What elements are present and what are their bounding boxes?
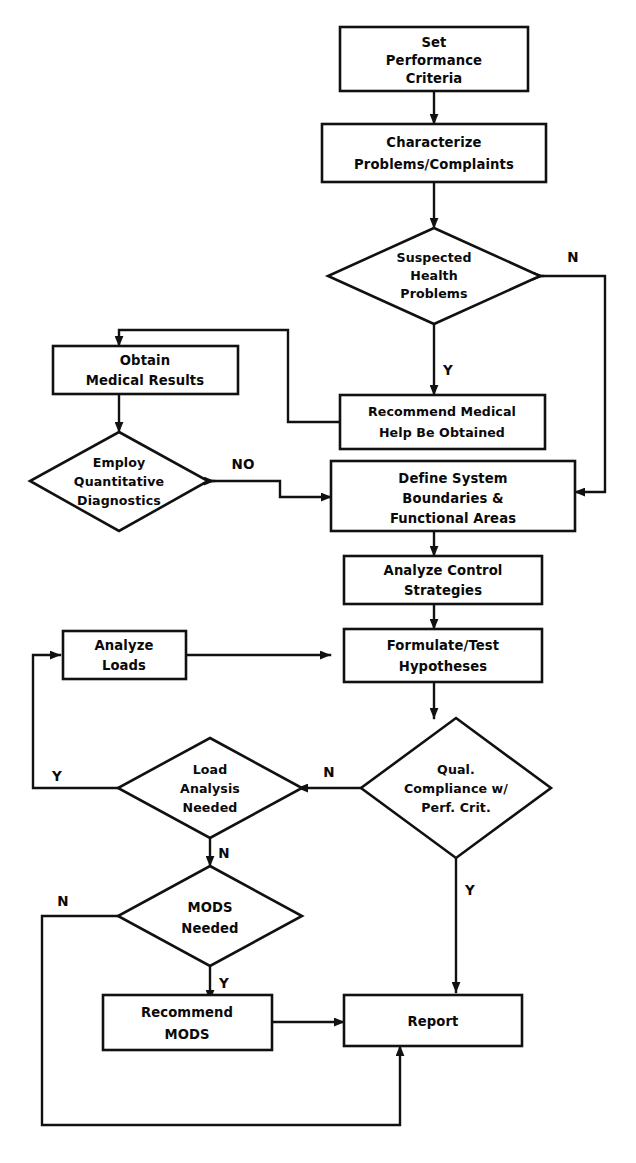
node-shape-decision [118,866,302,966]
node-shape-process [322,124,546,182]
node-analyze-control-strategies[interactable]: Analyze Control Strategies [344,556,542,604]
node-label-line-1: Employ [93,455,146,470]
node-label-line-2: Help Be Obtained [379,425,505,440]
node-label-line-1: Characterize [386,135,481,150]
node-label-line-1: Recommend Medical [368,404,516,419]
node-label-line-1: Analyze Control [384,563,503,578]
edge-employ-no [208,481,331,497]
node-label-line-1: Load [193,762,228,777]
node-define-system-boundaries[interactable]: Define System Boundaries & Functional Ar… [331,461,575,531]
edge-label-mods-no: N [57,893,68,909]
node-set-performance-criteria[interactable]: Set Performance Criteria [340,27,528,91]
edge-label-mods-yes: Y [218,975,229,991]
node-analyze-loads[interactable]: Analyze Loads [63,631,186,679]
node-label-line-2: MODS [164,1027,209,1042]
node-obtain-medical-results[interactable]: Obtain Medical Results [53,346,238,394]
node-suspected-health-problems[interactable]: Suspected Health Problems [328,228,540,324]
node-label-line-2: Health [410,268,457,283]
node-label-line-2: Problems/Complaints [354,157,514,172]
node-label-line-2: Analysis [180,781,240,796]
node-label-line-1: Qual. [437,762,475,777]
node-label-line-3: Functional Areas [390,511,516,526]
node-label-line-2: Compliance w/ [404,781,508,796]
node-mods-needed[interactable]: MODS Needed [118,866,302,966]
node-label-line-2: Medical Results [86,373,204,388]
edge-suspected-no [540,276,605,492]
node-label-line-1: Report [407,1014,458,1029]
node-label-line-2: Needed [181,921,238,936]
node-formulate-test-hypotheses[interactable]: Formulate/Test Hypotheses [344,629,542,682]
node-label-line-3: Criteria [406,71,463,86]
edge-label-suspected-yes: Y [442,362,453,378]
node-label-line-1: MODS [187,900,232,915]
node-label-line-3: Perf. Crit. [421,800,491,815]
edge-label-load-no: N [218,845,229,861]
node-label-line-2: Quantitative [74,474,164,489]
node-label-line-3: Diagnostics [77,493,161,508]
flowchart-svg: Set Performance Criteria Characterize Pr… [0,0,636,1163]
node-label-line-3: Needed [183,800,238,815]
edge-label-suspected-no: N [567,249,578,265]
node-label-line-1: Obtain [120,353,170,368]
node-load-analysis-needed[interactable]: Load Analysis Needed [118,738,302,838]
node-label-line-1: Set [421,35,446,50]
node-label-line-1: Formulate/Test [387,638,499,653]
node-characterize-problems[interactable]: Characterize Problems/Complaints [322,124,546,182]
node-label-line-1: Suspected [396,250,471,265]
node-label-line-3: Problems [400,286,467,301]
node-label-line-2: Hypotheses [399,659,487,674]
edge-label-load-yes: Y [51,768,62,784]
node-label-line-1: Analyze [95,638,154,653]
node-label-line-1: Define System [398,471,507,486]
edge-label-qual-no: N [323,764,334,780]
node-label-line-2: Strategies [404,583,482,598]
node-label-line-2: Boundaries & [402,491,503,506]
node-label-line-1: Recommend [141,1005,233,1020]
node-qual-compliance[interactable]: Qual. Compliance w/ Perf. Crit. [361,718,551,858]
edge-label-qual-yes: Y [464,882,475,898]
node-recommend-mods[interactable]: Recommend MODS [103,995,272,1050]
node-employ-quantitative-diagnostics[interactable]: Employ Quantitative Diagnostics [30,432,208,531]
node-shape-process [344,629,542,682]
node-label-line-2: Performance [386,53,482,68]
node-recommend-medical[interactable]: Recommend Medical Help Be Obtained [340,395,545,449]
node-label-line-2: Loads [102,658,146,673]
node-report[interactable]: Report [344,995,522,1046]
edge-label-employ-no: NO [232,456,255,472]
flowchart-canvas: Set Performance Criteria Characterize Pr… [0,0,636,1163]
